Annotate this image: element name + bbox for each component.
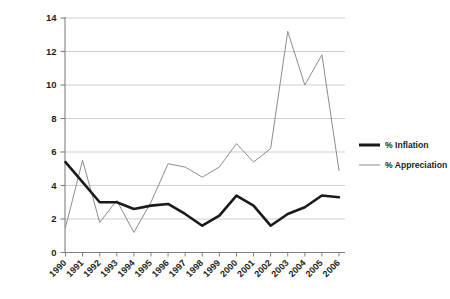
y-tick-label: 12	[46, 46, 57, 57]
series-line	[66, 162, 340, 226]
y-tick-label: 10	[46, 79, 57, 90]
chart-canvas: 02468101214 1990199119921993199419951996…	[0, 0, 450, 299]
legend: % Inflation% Appreciation	[359, 140, 447, 170]
x-tick-label: 1992	[81, 258, 102, 279]
x-tick-label: 2002	[252, 258, 273, 279]
y-tick-label: 4	[51, 180, 57, 191]
legend-label: % Appreciation	[385, 160, 447, 170]
series-inflation	[66, 162, 340, 226]
x-tick-label: 1990	[47, 258, 68, 279]
x-tick-label: 1991	[64, 258, 85, 279]
y-tick-labels: 02468101214	[46, 12, 57, 258]
x-tick-label: 2003	[269, 258, 290, 279]
y-axis	[61, 17, 66, 253]
x-axis	[65, 253, 345, 257]
x-tick-label: 2004	[286, 258, 307, 279]
gridlines	[65, 18, 345, 253]
x-tick-label: 1996	[150, 258, 171, 279]
x-tick-labels: 1990199119921993199419951996199719981999…	[47, 258, 342, 279]
x-tick-label: 1998	[184, 258, 205, 279]
x-tick-label: 2005	[304, 258, 325, 279]
y-tick-label: 6	[51, 146, 56, 157]
x-tick-label: 2006	[321, 258, 342, 279]
x-tick-label: 2001	[235, 258, 256, 279]
y-tick-label: 14	[46, 12, 57, 23]
line-chart: 02468101214 1990199119921993199419951996…	[0, 0, 450, 299]
y-tick-label: 0	[51, 247, 56, 258]
x-tick-label: 1997	[167, 258, 188, 279]
x-tick-label: 1993	[98, 258, 119, 279]
x-tick-label: 1994	[116, 258, 137, 279]
legend-label: % Inflation	[385, 140, 428, 150]
x-tick-label: 1999	[201, 258, 222, 279]
x-tick-label: 2000	[218, 258, 239, 279]
x-tick-label: 1995	[133, 258, 154, 279]
y-tick-label: 2	[51, 213, 56, 224]
y-tick-label: 8	[51, 113, 56, 124]
